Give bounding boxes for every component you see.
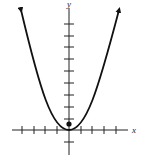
focus-point [66, 121, 71, 126]
parabola-curve [21, 10, 119, 130]
y-axis-label: y [67, 0, 71, 9]
parabola-graph [0, 0, 149, 162]
x-axis-label: x [132, 126, 136, 135]
y-axis [64, 8, 74, 155]
